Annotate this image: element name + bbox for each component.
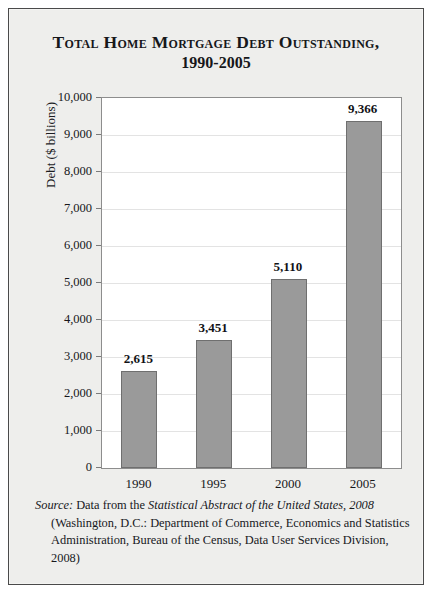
y-tick-label: 0 bbox=[30, 460, 92, 475]
y-tick-mark bbox=[96, 208, 101, 209]
plot-area bbox=[101, 97, 402, 469]
bar-value-label: 9,366 bbox=[348, 101, 377, 117]
y-tick-mark bbox=[96, 356, 101, 357]
y-tick-label: 7,000 bbox=[30, 201, 92, 216]
x-tick-label: 2000 bbox=[275, 476, 301, 492]
y-tick-label: 1,000 bbox=[30, 423, 92, 438]
y-tick-mark bbox=[96, 393, 101, 394]
figure-panel: Total Home Mortgage Debt Outstanding, 19… bbox=[8, 8, 424, 585]
source-text-after: (Washington, D.C.: Department of Commerc… bbox=[51, 516, 410, 565]
y-tick-mark bbox=[96, 245, 101, 246]
bar bbox=[346, 121, 382, 468]
x-tick-label: 1995 bbox=[200, 476, 226, 492]
chart-title-line2: 1990-2005 bbox=[9, 53, 423, 73]
source-note: Source: Data from the Statistical Abstra… bbox=[35, 497, 413, 567]
y-tick-label: 5,000 bbox=[30, 275, 92, 290]
y-tick-mark bbox=[96, 171, 101, 172]
y-tick-label: 4,000 bbox=[30, 312, 92, 327]
bar bbox=[271, 279, 307, 468]
y-tick-label: 6,000 bbox=[30, 238, 92, 253]
y-tick-label: 9,000 bbox=[30, 127, 92, 142]
x-tick-label: 2005 bbox=[350, 476, 376, 492]
y-tick-mark bbox=[96, 134, 101, 135]
y-tick-mark bbox=[96, 282, 101, 283]
y-tick-mark bbox=[96, 467, 101, 468]
y-tick-label: 10,000 bbox=[30, 90, 92, 105]
source-text-before: Data from the bbox=[73, 498, 148, 512]
x-tick-label: 1990 bbox=[125, 476, 151, 492]
chart-title: Total Home Mortgage Debt Outstanding, 19… bbox=[9, 31, 423, 74]
source-label: Source: bbox=[35, 498, 73, 512]
y-tick-mark bbox=[96, 97, 101, 98]
bar-value-label: 2,615 bbox=[124, 351, 153, 367]
bar-value-label: 5,110 bbox=[274, 259, 303, 275]
y-tick-label: 2,000 bbox=[30, 386, 92, 401]
y-tick-mark bbox=[96, 430, 101, 431]
y-tick-label: 3,000 bbox=[30, 349, 92, 364]
source-publication: Statistical Abstract of the United State… bbox=[148, 498, 374, 512]
y-tick-label: 8,000 bbox=[30, 164, 92, 179]
bar bbox=[196, 340, 232, 468]
bar-value-label: 3,451 bbox=[199, 320, 228, 336]
y-tick-mark bbox=[96, 319, 101, 320]
bar bbox=[121, 371, 157, 468]
chart-title-line1: Total Home Mortgage Debt Outstanding, bbox=[53, 32, 380, 52]
